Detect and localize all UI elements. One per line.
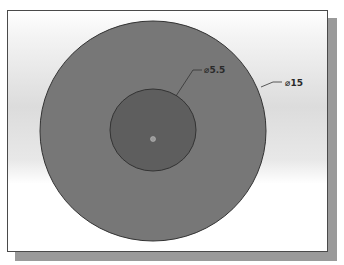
outer-dimension-leader — [261, 82, 282, 87]
inner-diameter-label[interactable]: ⌀5.5 — [204, 65, 225, 75]
inner-circle[interactable] — [110, 89, 196, 171]
sketch-canvas: ⌀5.5 ⌀15 — [0, 0, 344, 265]
center-point-icon — [151, 137, 156, 142]
outer-diameter-label[interactable]: ⌀15 — [285, 78, 303, 88]
